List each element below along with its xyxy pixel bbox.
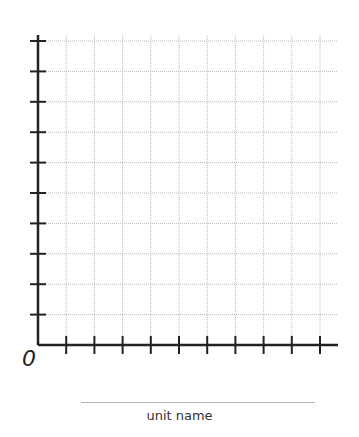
unit-name-line xyxy=(81,402,315,403)
graph-grid xyxy=(0,0,359,437)
unit-name-label: unit name xyxy=(0,408,359,423)
origin-label: 0 xyxy=(22,346,36,371)
